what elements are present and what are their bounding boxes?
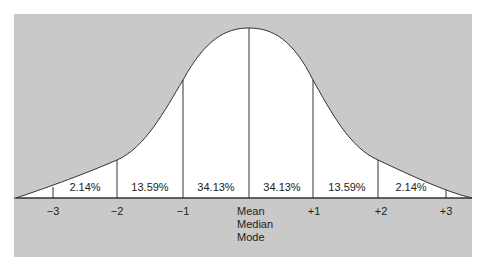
median-label: Median [237, 218, 273, 231]
tick-label-mean-median-mode: Mean Median Mode [237, 205, 273, 244]
tick-label-p1: +1 [308, 205, 321, 217]
segment-label-m3-m2: 2.14% [69, 181, 100, 193]
segment-label-m2-m1: 13.59% [131, 181, 168, 193]
mean-label: Mean [237, 205, 273, 218]
mode-label: Mode [237, 231, 273, 244]
tick-label-m3: −3 [47, 205, 60, 217]
bell-curve-area [16, 28, 472, 198]
segment-label-mean-p1: 34.13% [263, 181, 300, 193]
tick-label-m2: −2 [111, 205, 124, 217]
segment-label-p2-p3: 2.14% [395, 181, 426, 193]
tick-label-m1: −1 [177, 205, 190, 217]
segment-label-m1-mean: 34.13% [197, 181, 234, 193]
tick-label-p3: +3 [440, 205, 453, 217]
tick-label-p2: +2 [375, 205, 388, 217]
segment-label-p1-p2: 13.59% [328, 181, 365, 193]
